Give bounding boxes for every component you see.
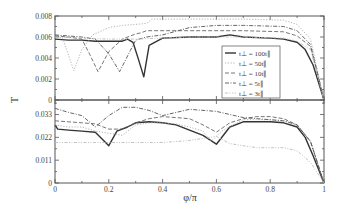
legend-entry: t⊥ = 50t∥ [239, 60, 267, 68]
plot-frame [55, 100, 324, 183]
y-tick-label: 0.004 [35, 54, 52, 63]
legend-entry: t⊥ = 100t∥ [239, 50, 271, 58]
top-panel: 00.0020.0040.0060.008 [35, 12, 324, 105]
legend: t⊥ = 100t∥t⊥ = 50t∥t⊥ = 10t∥t⊥ = 5t∥t⊥ =… [222, 46, 280, 98]
x-tick-label: 1 [322, 185, 326, 194]
y-tick-label: 0.002 [35, 75, 52, 84]
series-line [55, 136, 324, 183]
x-axis-label: φ/π [183, 192, 197, 203]
y-axis-label: T [9, 97, 20, 103]
bottom-panel: 00.0110.0220.03300.20.40.60.81 [35, 100, 326, 194]
series-line [55, 35, 324, 100]
y-tick-label: 0 [48, 179, 52, 188]
series-line [55, 107, 324, 183]
x-tick-label: 0.4 [158, 185, 168, 194]
legend-entry: t⊥ = 10t∥ [239, 70, 267, 78]
y-tick-label: 0.006 [35, 33, 52, 42]
series-line [55, 37, 324, 100]
series-line [55, 19, 324, 100]
series-line [55, 122, 324, 183]
x-tick-label: 0.6 [212, 185, 222, 194]
y-tick-label: 0.011 [35, 156, 52, 165]
x-tick-label: 0 [53, 185, 57, 194]
x-tick-label: 0.8 [266, 185, 276, 194]
y-tick-label: 0 [48, 96, 52, 105]
chart: 00.0020.0040.0060.008 00.0110.0220.03300… [0, 0, 343, 210]
y-tick-label: 0.022 [35, 133, 52, 142]
legend-entry: t⊥ = 5t∥ [239, 80, 264, 88]
plot-frame [55, 16, 324, 100]
y-tick-label: 0.033 [35, 110, 52, 119]
series-line [55, 120, 324, 183]
x-tick-label: 0.2 [104, 185, 114, 194]
legend-entry: t⊥ = 3t∥ [239, 90, 264, 98]
y-tick-label: 0.008 [35, 12, 52, 21]
